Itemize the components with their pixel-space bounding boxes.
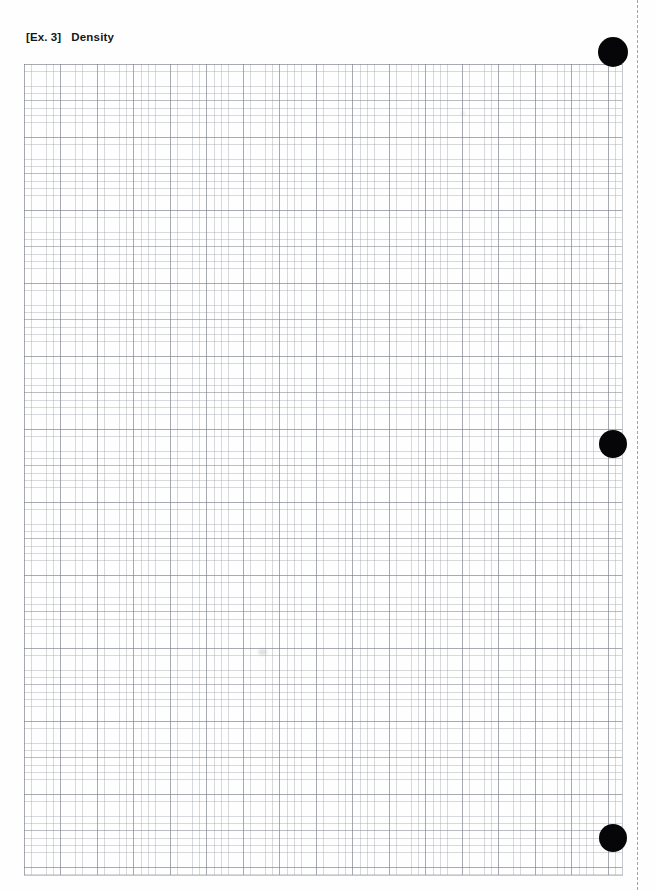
scan-edge-line — [637, 0, 638, 890]
exercise-tag: [Ex. 3] — [26, 31, 61, 43]
worksheet-page: [Ex. 3] Density — [0, 0, 656, 890]
graph-paper-grid — [24, 64, 622, 875]
middle-registration-dot — [599, 430, 627, 458]
page-title: Density — [71, 31, 114, 43]
bottom-registration-dot — [599, 824, 627, 852]
top-registration-dot — [598, 37, 628, 67]
page-header: [Ex. 3] Density — [26, 31, 114, 43]
